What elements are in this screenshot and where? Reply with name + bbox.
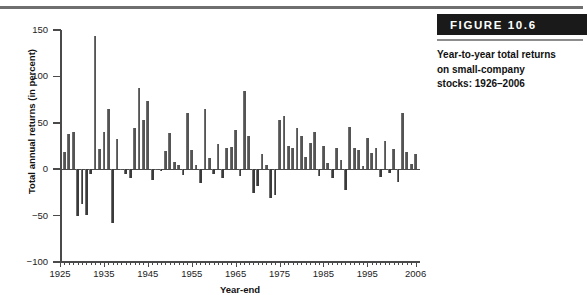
bar (318, 169, 321, 175)
bar (98, 149, 101, 169)
x-axis-title: Year-end (60, 284, 420, 295)
bar (392, 149, 395, 169)
bar (76, 169, 79, 215)
bar (384, 141, 387, 169)
bar (81, 169, 84, 204)
bar (304, 157, 307, 169)
x-axis-tick-label: 1965 (213, 268, 259, 279)
bar (164, 151, 167, 170)
bar (410, 164, 413, 170)
figure-caption: Year-to-year total returns on small-comp… (437, 48, 559, 92)
y-axis-tick-label: −50 (0, 210, 48, 221)
bar (204, 109, 207, 169)
bar (120, 169, 123, 170)
bar (366, 138, 369, 170)
bar (89, 169, 92, 174)
bar (177, 165, 180, 169)
bar (138, 88, 141, 170)
bar (362, 166, 365, 169)
bar (186, 113, 189, 170)
bar (217, 144, 220, 169)
bar (348, 127, 351, 169)
bar (283, 116, 286, 169)
bar (151, 169, 154, 180)
bar (274, 169, 277, 195)
bar (146, 101, 149, 169)
bar (103, 132, 106, 169)
bar-series (60, 30, 420, 262)
bar (85, 169, 88, 214)
bar (63, 152, 66, 169)
y-axis-tick-label: 100 (0, 70, 48, 81)
x-axis-tick-label: 2006 (393, 268, 439, 279)
x-axis-tick-label: 1925 (37, 268, 83, 279)
bar (357, 150, 360, 169)
y-axis-tick-label: 150 (0, 24, 48, 35)
y-axis-tick-label: −100 (0, 256, 48, 267)
bar (234, 130, 237, 169)
bar (401, 113, 404, 170)
bar (168, 133, 171, 169)
bar (269, 169, 272, 198)
bar (287, 146, 290, 169)
x-axis-tick-label: 1975 (257, 268, 303, 279)
x-axis-tick-label: 1945 (125, 268, 171, 279)
bar (278, 120, 281, 169)
x-axis-tick-label: 1935 (81, 268, 127, 279)
bar (388, 169, 391, 173)
bar (261, 154, 264, 169)
bar (124, 169, 127, 174)
bar (225, 148, 228, 169)
x-axis-tick-label: 1955 (169, 268, 215, 279)
bar (370, 153, 373, 169)
figure-number-badge: FIGURE 10.6 (437, 14, 587, 35)
bar (247, 136, 250, 169)
bar (313, 132, 316, 169)
bar (344, 169, 347, 189)
bar (326, 163, 329, 169)
bar (353, 148, 356, 169)
bar (160, 169, 163, 171)
bar (116, 139, 119, 170)
top-divider-rule (0, 6, 583, 9)
x-axis-tick-label: 1985 (300, 268, 346, 279)
bar (72, 132, 75, 169)
bar (252, 169, 255, 193)
bar (107, 109, 110, 169)
bar (212, 169, 215, 174)
bar (190, 150, 193, 169)
bar (221, 169, 224, 178)
bar (309, 143, 312, 169)
bar (375, 148, 378, 169)
bar (256, 169, 259, 186)
bar (195, 165, 198, 169)
bar (397, 169, 400, 182)
bar (94, 36, 97, 169)
figure-panel-rule (437, 39, 583, 41)
bar (291, 148, 294, 169)
bar (199, 169, 202, 183)
bar (155, 169, 158, 170)
bar (129, 169, 132, 177)
bar (243, 91, 246, 169)
y-axis-tick-label: 0 (0, 163, 48, 174)
bar (182, 169, 185, 175)
bar (142, 120, 145, 169)
bar (414, 154, 417, 169)
chart-area: Total annual returns (in percent) 150100… (0, 12, 430, 287)
x-axis-tick-label: 1995 (344, 268, 390, 279)
bar (335, 148, 338, 169)
bar (67, 134, 70, 169)
bar (133, 128, 136, 169)
bar (322, 146, 325, 169)
bar (300, 136, 303, 169)
bar (111, 169, 114, 223)
bar (208, 158, 211, 169)
bar (239, 169, 242, 175)
bar (405, 152, 408, 169)
bar (340, 160, 343, 169)
figure-panel: FIGURE 10.6 Year-to-year total returns o… (437, 14, 587, 92)
bar (296, 128, 299, 169)
figure-number-label: FIGURE 10.6 (437, 19, 537, 31)
